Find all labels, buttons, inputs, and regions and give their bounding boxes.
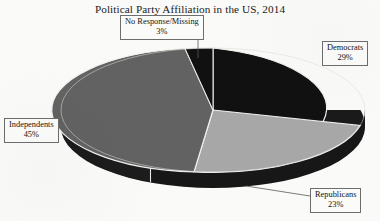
callout-republicans: Republicans 23% (310, 188, 361, 213)
callout-no-response-percent: 3% (125, 27, 199, 37)
callout-republicans-percent: 23% (315, 200, 356, 210)
callout-no-response: No Response/Missing 3% (120, 15, 204, 40)
callout-republicans-label: Republicans (315, 190, 356, 199)
pie-slice-independents (52, 49, 213, 172)
callout-democrats-percent: 29% (327, 53, 363, 63)
callout-no-response-label: No Response/Missing (125, 17, 199, 26)
leader-line-republicans (246, 186, 310, 196)
callout-democrats-label: Democrats (327, 43, 363, 52)
callout-independents-percent: 45% (9, 130, 54, 140)
callout-democrats: Democrats 29% (322, 41, 368, 66)
chart-page: Political Party Affiliation in the US, 2… (0, 0, 380, 221)
pie-slices (52, 48, 365, 172)
callout-independents: Independents 45% (4, 118, 59, 143)
callout-independents-label: Independents (9, 120, 54, 129)
